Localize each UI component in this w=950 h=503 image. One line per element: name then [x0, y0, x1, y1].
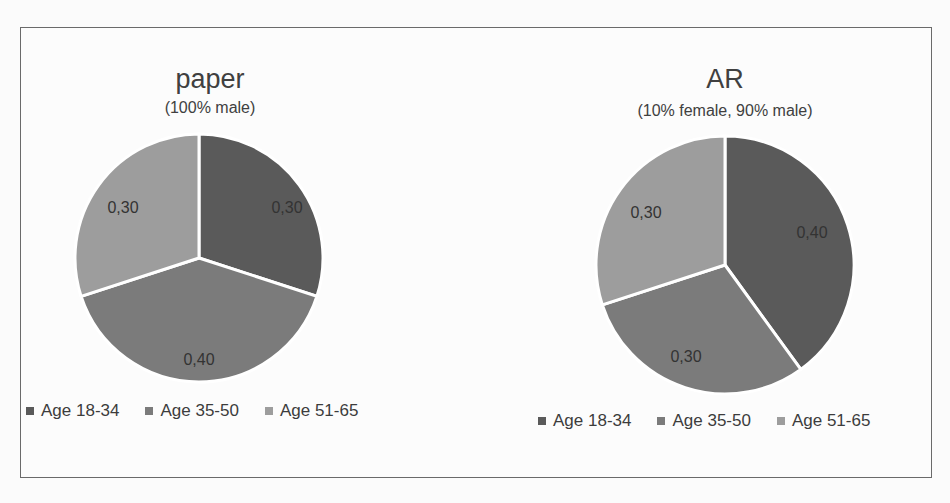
legend-swatch-icon	[777, 417, 785, 425]
legend-label: Age 18-34	[553, 411, 631, 431]
left-label-age-51-65: 0,30	[107, 199, 138, 216]
legend-label: Age 51-65	[280, 401, 358, 421]
legend-swatch-icon	[145, 407, 153, 415]
right-label-age-35-50: 0,30	[670, 348, 701, 365]
legend-item-age-35-50: Age 35-50	[657, 411, 750, 431]
legend-label: Age 35-50	[672, 411, 750, 431]
legend-item-age-18-34: Age 18-34	[538, 411, 631, 431]
right-legend: Age 18-34 Age 35-50 Age 51-65	[538, 411, 896, 431]
legend-label: Age 18-34	[41, 401, 119, 421]
legend-swatch-icon	[26, 407, 34, 415]
legend-swatch-icon	[657, 417, 665, 425]
legend-swatch-icon	[265, 407, 273, 415]
right-label-age-51-65: 0,30	[630, 204, 661, 221]
left-legend: Age 18-34 Age 35-50 Age 51-65	[26, 401, 384, 421]
legend-label: Age 35-50	[160, 401, 238, 421]
legend-item-age-51-65: Age 51-65	[265, 401, 358, 421]
legend-item-age-51-65: Age 51-65	[777, 411, 870, 431]
right-pie: 0,40 0,30 0,30	[596, 136, 854, 394]
left-label-age-18-34: 0,30	[271, 199, 302, 216]
right-label-age-18-34: 0,40	[796, 224, 827, 241]
left-pie: 0,30 0,40 0,30	[75, 134, 323, 382]
legend-item-age-18-34: Age 18-34	[26, 401, 119, 421]
left-label-age-35-50: 0,40	[183, 351, 214, 368]
legend-label: Age 51-65	[792, 411, 870, 431]
legend-item-age-35-50: Age 35-50	[145, 401, 238, 421]
legend-swatch-icon	[538, 417, 546, 425]
